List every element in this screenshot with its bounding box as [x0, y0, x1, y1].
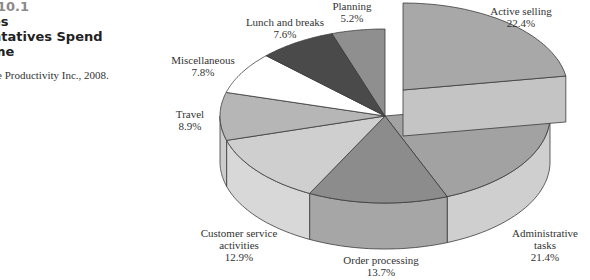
label-name: Customer service: [201, 227, 278, 239]
label-name: Administrative: [512, 227, 578, 239]
label-value: 13.7%: [343, 266, 418, 278]
label-name: Travel: [176, 108, 204, 120]
label-lunch-and-breaks: Lunch and breaks 7.6%: [246, 16, 324, 40]
label-name: Miscellaneous: [171, 54, 235, 66]
label-travel: Travel 8.9%: [176, 108, 204, 132]
label-order-processing: Order processing 13.7%: [343, 254, 418, 278]
label-name: Active selling: [490, 5, 551, 17]
label-miscellaneous: Miscellaneous 7.8%: [171, 54, 235, 78]
label-customer-service: Customer service activities 12.9%: [201, 227, 278, 263]
label-value: 7.8%: [171, 66, 235, 78]
label-name: Order processing: [343, 254, 418, 266]
label-value: 12.9%: [201, 251, 278, 263]
label-active-selling: Active selling 22.4%: [490, 5, 551, 29]
label-name: Planning: [332, 0, 371, 12]
label-value: 5.2%: [332, 12, 371, 24]
label-value: 8.9%: [176, 120, 204, 132]
label-name: Lunch and breaks: [246, 16, 324, 28]
label-value: 21.4%: [512, 251, 578, 263]
label-name-2: tasks: [512, 239, 578, 251]
label-value: 22.4%: [490, 17, 551, 29]
label-name-2: activities: [201, 239, 278, 251]
label-value: 7.6%: [246, 28, 324, 40]
pie-chart: [0, 0, 590, 280]
label-administrative-tasks: Administrative tasks 21.4%: [512, 227, 578, 263]
label-planning: Planning 5.2%: [332, 0, 371, 24]
